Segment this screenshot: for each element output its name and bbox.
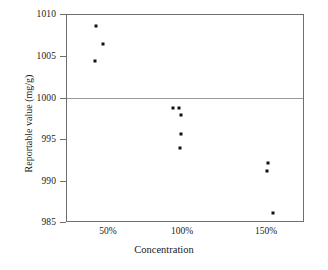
y-tick-label-995: 995 [41,134,56,144]
data-point [95,25,98,28]
x-tick-label-100: 100% [171,226,193,236]
data-point [180,133,183,136]
data-point [102,43,105,46]
data-point [180,114,183,117]
y-tick-label-1010: 1010 [37,9,56,19]
y-tick-label-990: 990 [41,176,56,186]
data-point [178,107,181,110]
data-point [266,170,269,173]
x-axis-title: Concentration [0,244,328,255]
data-point [272,212,275,215]
y-tick-mark [60,222,66,223]
data-point [267,162,270,165]
reference-line-1000 [67,98,303,99]
x-tick-label-50: 50% [99,226,116,236]
data-point [172,107,175,110]
x-tick-label-150: 150% [255,226,277,236]
y-tick-label-1000: 1000 [37,93,56,103]
y-tick-label-1005: 1005 [37,51,56,61]
scatter-plot-figure: Reportable value (mg/g) 1010 1005 1000 9… [0,0,328,270]
data-point [94,60,97,63]
y-tick-label-985: 985 [41,217,56,227]
plot-area [66,14,304,222]
y-axis-title: Reportable value (mg/g) [23,44,34,204]
data-point [179,147,182,150]
